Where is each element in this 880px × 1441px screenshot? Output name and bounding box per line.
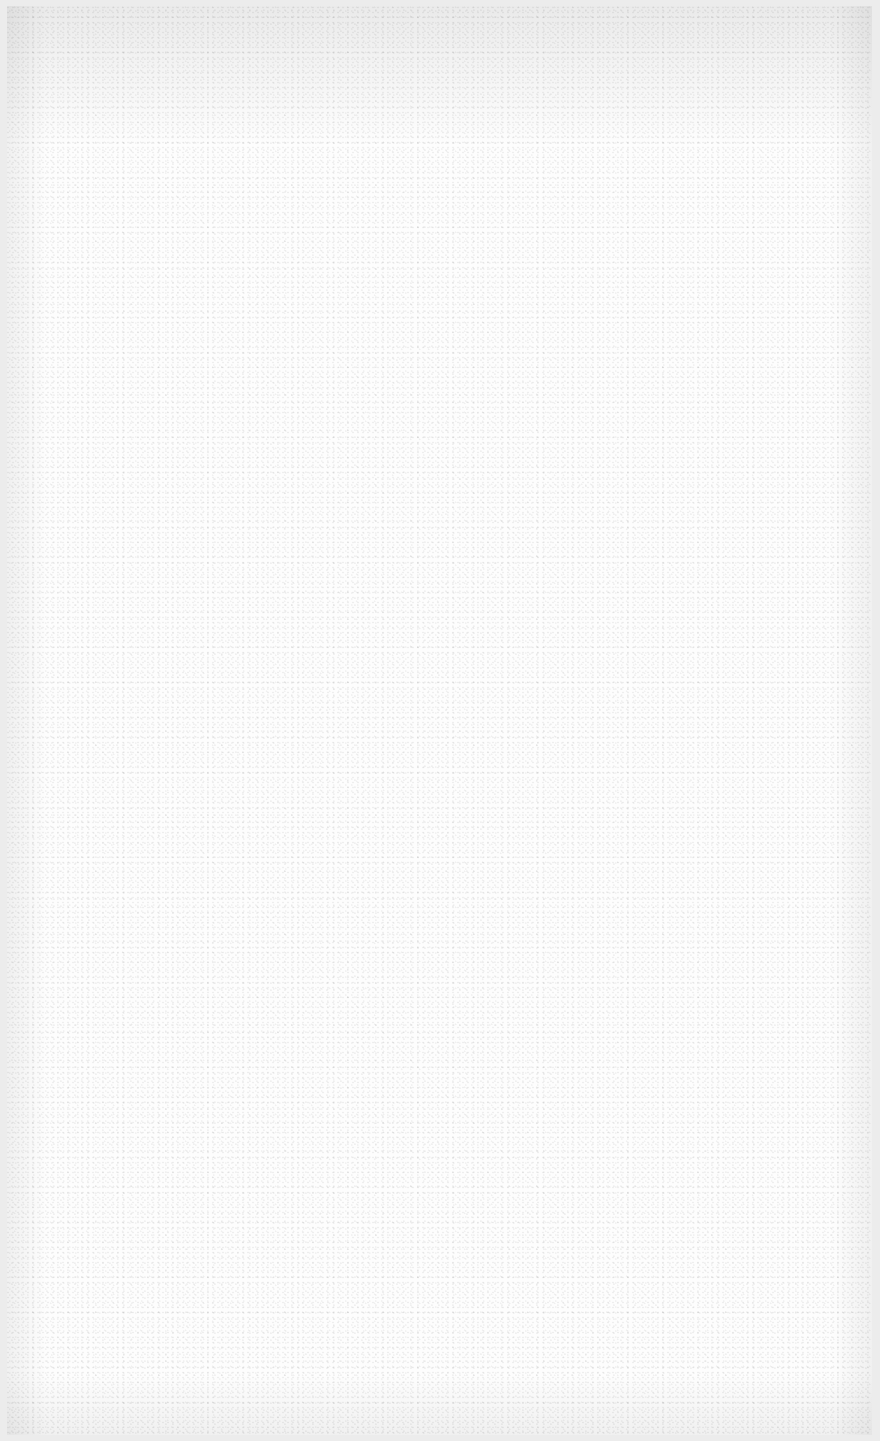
page-frame [0,0,880,1441]
page-content [7,6,872,1435]
blank-paper-sheet [7,6,872,1435]
